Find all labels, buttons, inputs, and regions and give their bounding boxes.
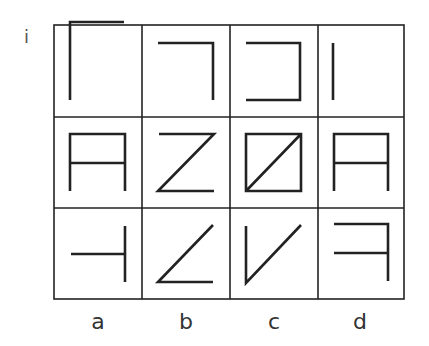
cell-2d-a-shape-alt — [334, 134, 388, 191]
cell-1b-corner-top-right — [158, 43, 213, 100]
cell-3a-t-rotated — [71, 226, 125, 282]
column-label-a: a — [54, 309, 142, 334]
cell-2c-square-diagonal — [246, 134, 301, 191]
cell-3c-v-shape — [246, 225, 301, 283]
column-label-c: c — [230, 309, 318, 334]
figure-grid — [0, 0, 429, 346]
cell-2b-z-shape — [158, 134, 214, 191]
cell-1a-corner-top-left — [70, 22, 124, 100]
cell-2a-a-shape — [70, 134, 125, 191]
cell-1c-bracket-right — [246, 43, 300, 100]
column-label-b: b — [142, 309, 230, 334]
cell-3b-angle-bottom-left — [158, 225, 213, 282]
cell-3d-reversed-f — [334, 224, 388, 281]
column-label-d: d — [316, 309, 404, 334]
